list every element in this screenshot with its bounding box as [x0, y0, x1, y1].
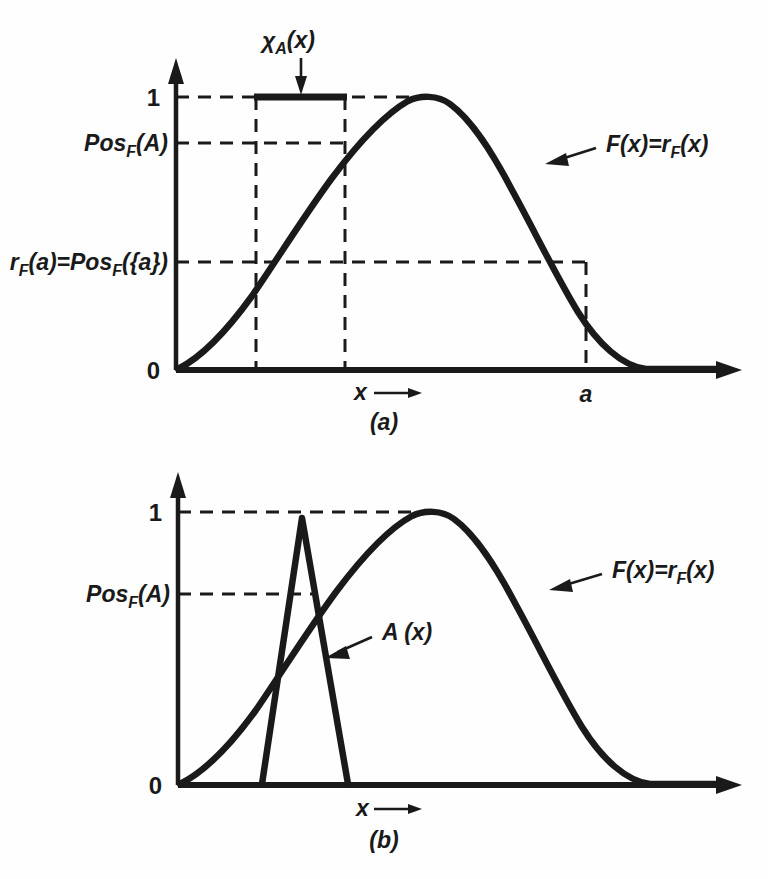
fuzzy-label-b: A (x) — [381, 619, 432, 645]
panel-b-label-pos-f-a: PosF(A) — [86, 581, 170, 611]
panel-b-tick-one: 1 — [149, 499, 162, 526]
panel-a-caption: (a) — [370, 409, 398, 435]
y-axis-arrowhead — [170, 472, 186, 498]
curve-label-a-pointer-arrowhead — [545, 153, 569, 166]
possibility-curve-f — [180, 512, 726, 784]
panel-b-tick-zero: 0 — [149, 772, 162, 799]
panel-b-x-axis-label: x — [354, 795, 422, 821]
figure-root: χA(x) F(x)=rF(x) 1 0 PosF(A) — [0, 0, 768, 879]
panel-b-svg: A (x) F(x)=rF(x) 1 0 PosF(A) x — [0, 440, 768, 879]
fuzzy-membership-triangle-a — [262, 518, 348, 784]
y-axis-arrowhead — [168, 58, 184, 84]
chi-a-pointer-arrowhead — [295, 76, 307, 95]
panel-a-reference-lines — [176, 97, 586, 368]
chart-panel-a: χA(x) F(x)=rF(x) 1 0 PosF(A) — [0, 0, 768, 440]
panel-b-y-axis — [170, 472, 186, 785]
chi-a-label: χA(x) — [259, 27, 315, 57]
annotation-curve-label-b: F(x)=rF(x) — [549, 557, 714, 592]
curve-label-b-pointer-arrowhead — [549, 579, 573, 592]
panel-a-tick-zero: 0 — [147, 357, 160, 384]
panel-a-x-label-arrowhead — [408, 388, 422, 398]
panel-a-tick-a: a — [580, 381, 593, 407]
panel-a-label-r-f-a: rF(a)=PosF({a}) — [10, 249, 168, 279]
chart-panel-b: A (x) F(x)=rF(x) 1 0 PosF(A) x — [0, 440, 768, 879]
panel-a-tick-one: 1 — [147, 84, 160, 111]
annotation-chi-a: χA(x) — [259, 27, 315, 95]
annotation-fuzzy-label-b: A (x) — [325, 619, 432, 659]
annotation-curve-label-a: F(x)=rF(x) — [545, 131, 708, 166]
panel-a-label-pos-f-a: PosF(A) — [84, 130, 168, 160]
curve-label-a: F(x)=rF(x) — [606, 131, 708, 161]
panel-a-svg: χA(x) F(x)=rF(x) 1 0 PosF(A) — [0, 0, 768, 440]
panel-b-x-label: x — [354, 795, 370, 821]
panel-b-x-label-arrowhead — [408, 804, 422, 814]
panel-b-caption: (b) — [369, 827, 398, 853]
panel-a-x-label: x — [352, 379, 368, 405]
panel-a-y-axis — [168, 58, 184, 370]
curve-label-b: F(x)=rF(x) — [612, 557, 714, 587]
panel-a-x-axis-label: x — [352, 379, 422, 405]
fuzzy-label-b-pointer-arrowhead — [325, 646, 350, 659]
